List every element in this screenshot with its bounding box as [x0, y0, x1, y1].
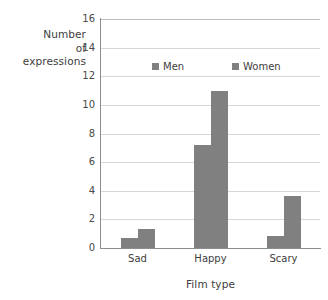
y-axis-tick-label: 14: [71, 42, 95, 53]
x-axis-category-label: Scary: [269, 253, 297, 264]
legend-entry-women: Women: [232, 61, 281, 72]
x-axis-line: [100, 248, 321, 249]
y-axis-tick-label: 12: [71, 70, 95, 81]
legend-swatch-icon: [152, 63, 159, 70]
y-axis-tick-label: 4: [71, 185, 95, 196]
bar-chart-figure: Number of expressions 0246810121416 MenW…: [0, 0, 328, 300]
y-axis-tick-label: 6: [71, 156, 95, 167]
y-axis-tick-label: 0: [71, 242, 95, 253]
y-axis-tick-label: 16: [71, 13, 95, 24]
chart-legend: MenWomen: [101, 61, 320, 75]
legend-label: Men: [163, 61, 184, 72]
legend-label: Women: [243, 61, 281, 72]
x-axis-category-label: Happy: [194, 253, 226, 264]
x-axis-category-label: Sad: [128, 253, 147, 264]
x-axis-title: Film type: [101, 278, 320, 290]
y-axis-tick-labels: 0246810121416: [0, 19, 328, 248]
y-axis-tick-label: 8: [71, 128, 95, 139]
legend-entry-men: Men: [152, 61, 184, 72]
legend-swatch-icon: [232, 63, 239, 70]
y-axis-tick-label: 10: [71, 99, 95, 110]
y-axis-tick-label: 2: [71, 213, 95, 224]
y-axis-line: [100, 18, 101, 249]
